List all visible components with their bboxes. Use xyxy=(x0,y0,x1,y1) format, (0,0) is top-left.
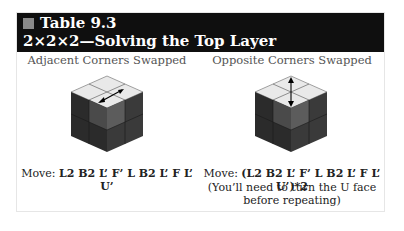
table-9-3: Table 9.3 2×2×2—Solving the Top Layer Ad… xyxy=(16,12,385,212)
move-prefix: Move: xyxy=(21,167,59,180)
cube-adjacent-swap-icon xyxy=(67,74,147,154)
table-marker-square-icon xyxy=(23,18,34,29)
column-heading: Opposite Corners Swapped xyxy=(199,53,385,67)
note-line: (You’ll need to turn the U face xyxy=(199,181,385,194)
table-title: 2×2×2—Solving the Top Layer xyxy=(23,32,384,51)
repeat-note: (You’ll need to turn the U face before r… xyxy=(199,181,385,207)
move-sequence-line: Move: L2 B2 L’ F’ L B2 L’ F L’ U’ xyxy=(17,167,197,193)
table-header: Table 9.3 2×2×2—Solving the Top Layer xyxy=(17,13,384,52)
move-sequence: L2 B2 L’ F’ L B2 L’ F L’ U’ xyxy=(59,167,193,193)
column-heading: Adjacent Corners Swapped xyxy=(17,53,197,67)
column-adjacent-corners: Adjacent Corners Swapped xyxy=(17,52,197,212)
table-body: Adjacent Corners Swapped xyxy=(17,52,384,212)
table-label: Table 9.3 xyxy=(40,15,117,32)
cube-opposite-swap-icon xyxy=(251,74,331,154)
move-prefix: Move: xyxy=(204,167,242,180)
column-opposite-corners: Opposite Corners Swapped xyxy=(199,52,385,212)
note-line: before repeating) xyxy=(199,194,385,207)
